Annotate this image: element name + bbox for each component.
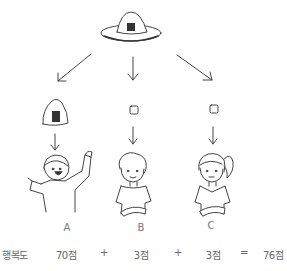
equation-value-c: 3점 [206,247,220,262]
rice-grain-icon [210,105,218,113]
equation-value-a: 70점 [56,247,76,262]
person-label-b: B [138,222,145,233]
arrow-down-left-icon [58,54,91,81]
arrow-down-right-icon [177,55,212,80]
arrow-down-icon [128,57,138,80]
equation-operator-plus: + [174,247,182,258]
arrow-down-icon [51,134,59,150]
onigiri-icon [43,99,68,125]
equation-operator-plus: + [100,247,108,258]
person-a-figure [28,151,92,212]
person-label-a: A [64,222,71,233]
equation-operator-equals: = [240,247,248,258]
arrow-down-icon [129,127,137,144]
rice-grain-icon [130,106,138,114]
arrow-down-icon [209,127,217,144]
diagram-canvas: A B C 행복도 70점 + 3점 + 3점 = 76점 [0,0,287,271]
onigiri-on-plate-icon [101,12,161,41]
person-b-figure [116,153,151,216]
equation-term-label: 행복도 [2,247,28,262]
equation-result: 76점 [263,247,283,262]
equation-value-b: 3점 [134,247,148,262]
person-label-c: C [208,220,215,231]
person-c-figure [195,154,233,216]
